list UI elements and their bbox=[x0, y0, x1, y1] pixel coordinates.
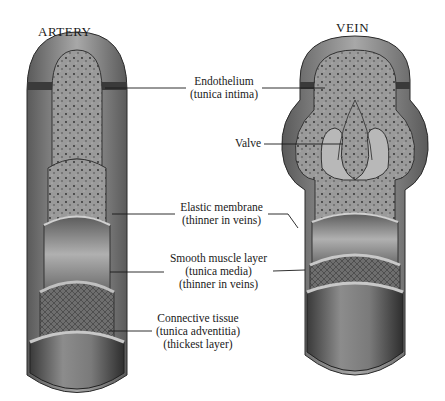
label-endothelium: Endothelium (tunica intima) bbox=[186, 75, 262, 101]
label-smooth-muscle: Smooth muscle layer (tunica media) (thin… bbox=[164, 252, 273, 291]
vein-diagram bbox=[282, 36, 428, 375]
vein-title: VEIN bbox=[336, 20, 369, 36]
artery-title: ARTERY bbox=[38, 24, 92, 40]
label-connective-tissue: Connective tissue (tunica adventitia) (t… bbox=[152, 312, 244, 351]
label-valve: Valve bbox=[232, 137, 264, 150]
label-elastic-membrane: Elastic membrane (thinner in veins) bbox=[175, 201, 268, 227]
artery-diagram bbox=[27, 32, 127, 393]
